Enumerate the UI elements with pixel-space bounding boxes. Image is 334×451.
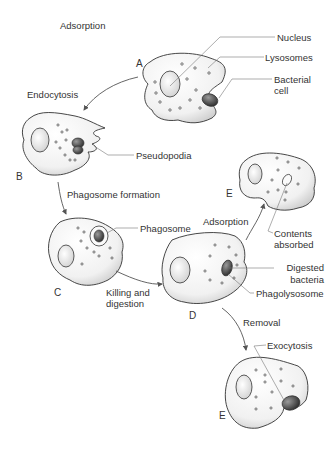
nucleus-icon: [58, 245, 74, 267]
killing-arrow: [116, 271, 162, 284]
label-digested: Digested: [276, 262, 324, 273]
stage-letter-d: D: [189, 310, 196, 321]
label-exocytosis: Exocytosis: [267, 340, 312, 351]
stage-letter-a: A: [136, 58, 143, 69]
cell-c: [48, 218, 123, 285]
title-adsorption: Adsorption: [60, 20, 105, 31]
cell-b: [22, 113, 105, 176]
step-endocytosis: Endocytosis: [27, 89, 78, 100]
label-lysosomes: Lysosomes: [265, 52, 313, 63]
label-bacterial: Bacterial: [274, 74, 311, 85]
label-phagolysosome: Phagolysosome: [256, 288, 324, 299]
label-nucleus: Nucleus: [277, 32, 311, 43]
endocytosis-arrow: [84, 77, 138, 110]
nucleus-icon: [236, 375, 252, 399]
cell-e-bottom: [225, 357, 308, 428]
step-removal: Removal: [243, 317, 281, 328]
label-bacteria: bacteria: [276, 274, 324, 285]
step-digestion: digestion: [106, 298, 144, 309]
label-phagosome: Phagosome: [140, 223, 191, 234]
stage-letter-e-top: E: [226, 188, 233, 199]
phagosome-formation-arrow: [58, 182, 66, 214]
stage-letter-b: B: [16, 171, 23, 182]
nucleus-icon: [248, 164, 262, 184]
label-pseudopodia: Pseudopodia: [136, 150, 191, 161]
step-adsorption: Adsorption: [203, 216, 248, 227]
step-phagosome-formation: Phagosome formation: [67, 189, 160, 200]
cell-e-top: [239, 153, 315, 210]
nucleus-icon: [31, 128, 49, 152]
adsorption-arrow: [246, 204, 264, 240]
label-contents: Contents: [274, 228, 312, 239]
stage-letter-c: C: [54, 287, 61, 298]
nucleus-icon: [170, 257, 190, 283]
nucleus-icon: [160, 71, 180, 97]
stage-letter-e-bottom: E: [219, 410, 226, 421]
step-killing: Killing and: [106, 287, 150, 298]
label-absorbed: absorbed: [274, 239, 314, 250]
removal-arrow: [222, 308, 246, 350]
label-cell: cell: [274, 85, 288, 96]
